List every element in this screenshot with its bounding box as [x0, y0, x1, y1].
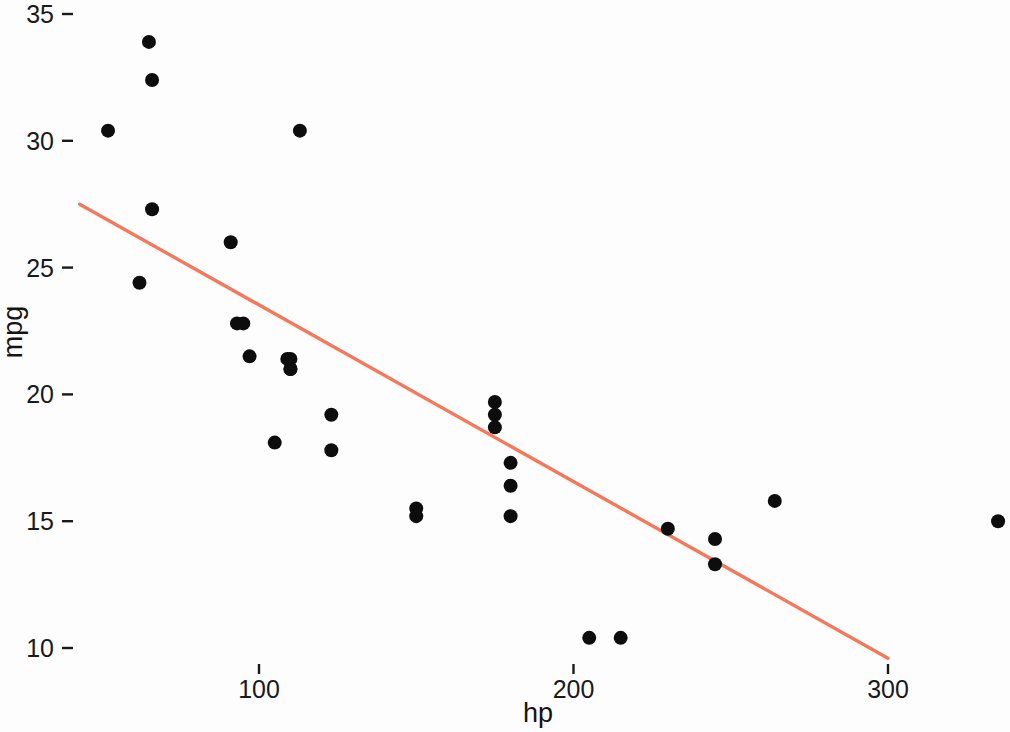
data-point [243, 349, 257, 363]
plot-canvas: 101520253035 100200300 hp mpg [0, 0, 1010, 732]
data-point [614, 631, 628, 645]
data-point [145, 202, 159, 216]
data-point [142, 35, 156, 49]
y-tick-label: 10 [26, 634, 54, 662]
data-point [582, 631, 596, 645]
y-tick-label: 35 [26, 0, 54, 28]
y-tick-label: 15 [26, 507, 54, 535]
x-tick-label: 100 [238, 675, 280, 703]
plot-panel-background [0, 0, 1010, 732]
data-point [324, 408, 338, 422]
data-point [488, 395, 502, 409]
x-tick-label: 200 [553, 675, 595, 703]
y-tick-label: 30 [26, 127, 54, 155]
data-point [708, 557, 722, 571]
data-point [768, 494, 782, 508]
data-point [504, 509, 518, 523]
x-tick-label: 300 [867, 675, 909, 703]
data-point [708, 532, 722, 546]
data-point [101, 124, 115, 138]
scatter-plot-figure: 101520253035 100200300 hp mpg [0, 0, 1010, 732]
data-point [504, 479, 518, 493]
y-axis-title: mpg [0, 306, 28, 359]
data-point [268, 436, 282, 450]
data-point [991, 514, 1005, 528]
y-tick-label: 25 [26, 254, 54, 282]
data-point [409, 509, 423, 523]
data-point [224, 235, 238, 249]
data-point [236, 316, 250, 330]
data-point [293, 124, 307, 138]
data-point [488, 408, 502, 422]
data-point [661, 522, 675, 536]
y-tick-label: 20 [26, 380, 54, 408]
data-point [280, 352, 294, 366]
data-point [132, 276, 146, 290]
data-point [488, 420, 502, 434]
data-point [504, 456, 518, 470]
x-axis-title: hp [523, 698, 553, 728]
data-point [145, 73, 159, 87]
data-point [324, 443, 338, 457]
